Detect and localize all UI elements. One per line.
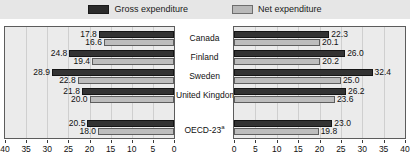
bar-row: 20.518.0: [5, 119, 174, 138]
bar-value-label: 16.6: [85, 39, 102, 46]
bar-net: [234, 96, 335, 103]
chart-panel-left: 17.816.624.819.428.922.821.820.020.518.0: [4, 26, 175, 139]
bar-net: [92, 58, 174, 65]
axis-tick-label: 10: [272, 143, 281, 155]
category-label-text: Sweden: [189, 71, 220, 81]
category-label: United Kingdom: [176, 86, 233, 105]
bar-value-label: 28.9: [33, 69, 50, 76]
axis-tick-label: 20: [315, 143, 324, 155]
bar-row: 17.816.6: [5, 30, 174, 49]
bar-net: [234, 39, 320, 46]
legend-item-gross: Gross expenditure: [88, 5, 188, 14]
bar-row: 21.820.0: [5, 87, 174, 106]
axis-tick-label: 25: [336, 143, 345, 155]
axis-tick-label: 25: [64, 143, 73, 155]
bar-row: 24.819.4: [5, 49, 174, 68]
axis-tick-label: 40: [0, 143, 9, 155]
bar-row: 26.020.2: [234, 49, 405, 68]
axis-tick-label: 0: [172, 143, 177, 155]
category-label: OECD-23a: [176, 118, 233, 137]
x-axis-left: 4035302520151050: [4, 140, 175, 160]
bar-net: [234, 128, 319, 135]
axis-tick-label: 30: [358, 143, 367, 155]
axis-tick-label: 30: [43, 143, 52, 155]
bar-net: [234, 77, 341, 84]
axis-tick-label: 5: [151, 143, 156, 155]
legend-swatch-icon: [88, 5, 109, 14]
bar-value-label: 20.2: [322, 58, 339, 65]
bar-rows-left: 17.816.624.819.428.922.821.820.020.518.0: [5, 27, 174, 138]
bar-value-label: 19.8: [321, 128, 338, 135]
axis-tick-label: 20: [85, 143, 94, 155]
legend-item-net: Net expenditure: [232, 5, 322, 14]
bar-rows-right: 22.320.126.020.232.425.026.223.623.019.8: [234, 27, 405, 138]
bar-row: 23.019.8: [234, 119, 405, 138]
bar-row: 22.320.1: [234, 30, 405, 49]
chart-figure: Gross expenditureNet expenditure 17.816.…: [0, 0, 410, 161]
bar-net: [234, 58, 320, 65]
bar-net: [104, 39, 174, 46]
category-labels: CanadaFinlandSwedenUnited KingdomOECD-23…: [176, 26, 233, 139]
legend-label: Net expenditure: [258, 5, 322, 14]
axis-tick-label: 15: [106, 143, 115, 155]
bar-gross: [99, 31, 174, 38]
bar-gross: [234, 88, 346, 95]
category-label-text: Finland: [191, 52, 219, 62]
bar-net: [90, 96, 175, 103]
bar-gross: [82, 88, 174, 95]
axis-tick-label: 35: [21, 143, 30, 155]
bar-row: 28.922.8: [5, 68, 174, 87]
bar-value-label: 18.0: [79, 128, 96, 135]
bar-row: 32.425.0: [234, 68, 405, 87]
bar-value-label: 25.0: [343, 77, 360, 84]
bar-gross: [234, 31, 329, 38]
category-label-text: United Kingdom: [176, 90, 236, 100]
axis-tick-label: 10: [127, 143, 136, 155]
bar-value-label: 20.1: [322, 39, 339, 46]
category-label: Finland: [176, 48, 233, 67]
bar-value-label: 19.4: [74, 58, 91, 65]
axis-tick-label: 35: [379, 143, 388, 155]
category-label: Sweden: [176, 67, 233, 86]
bar-value-label: 23.6: [337, 96, 354, 103]
bar-value-label: 22.8: [59, 77, 76, 84]
footnote-marker: a: [221, 124, 224, 130]
bar-value-label: 20.0: [71, 96, 88, 103]
chart-panel-right: 22.320.126.020.232.425.026.223.623.019.8: [233, 26, 406, 139]
bar-value-label: 32.4: [375, 69, 392, 76]
bar-gross: [87, 120, 174, 127]
axis-tick-label: 0: [232, 143, 237, 155]
x-axis-right: 0510152025303540: [233, 140, 406, 160]
legend-swatch-icon: [232, 5, 253, 14]
axis-tick-label: 15: [293, 143, 302, 155]
category-label-text: OECD-23: [184, 125, 221, 135]
bar-net: [98, 128, 174, 135]
chart-legend: Gross expenditureNet expenditure: [0, 0, 410, 19]
bar-value-label: 26.0: [347, 50, 364, 57]
bar-gross: [234, 120, 332, 127]
category-label-text: Canada: [190, 33, 220, 43]
bar-net: [78, 77, 174, 84]
bar-row: 26.223.6: [234, 87, 405, 106]
category-label: Canada: [176, 29, 233, 48]
legend-label: Gross expenditure: [114, 5, 188, 14]
axis-tick-label: 5: [253, 143, 258, 155]
axis-tick-label: 40: [400, 143, 409, 155]
bar-value-label: 24.8: [51, 50, 68, 57]
